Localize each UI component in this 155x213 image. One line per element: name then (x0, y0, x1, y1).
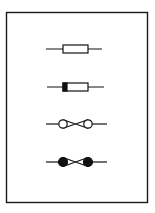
fuse-supply-mark (63, 83, 67, 91)
link-terminal-right (84, 120, 92, 128)
fuse-symbols-diagram (0, 0, 155, 213)
fuse-marked-symbol (47, 83, 104, 91)
fusible-link-filled-symbol (46, 158, 107, 167)
fuse-body (63, 45, 88, 53)
link-filled-terminal-right (84, 158, 93, 167)
fusible-link-open-symbol (46, 120, 107, 128)
diagram-frame (7, 13, 148, 203)
fuse-symbol (46, 45, 102, 53)
link-filled-terminal-left (59, 158, 68, 167)
link-terminal-left (59, 120, 67, 128)
